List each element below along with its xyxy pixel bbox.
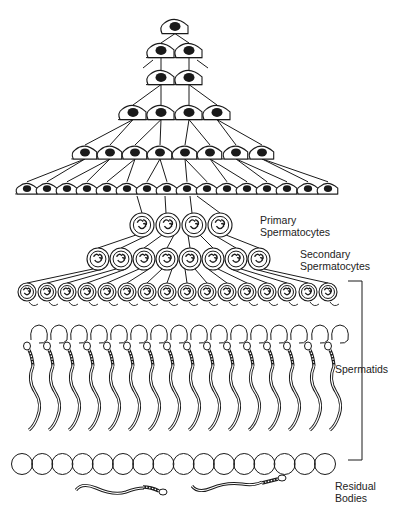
spermatogonium-cell — [147, 105, 174, 119]
spermatogonium-cell — [216, 183, 237, 194]
elongating-spermatid — [24, 300, 48, 430]
elongating-spermatid — [264, 300, 288, 430]
elongating-spermatid — [224, 300, 248, 430]
elongating-spermatid — [204, 300, 228, 430]
spermatogonium-cell — [256, 183, 277, 194]
elongating-spermatid — [124, 300, 148, 430]
residual-body-circle — [72, 454, 93, 475]
spermatid-round-cell — [18, 283, 36, 301]
spermatogonium-cell — [175, 43, 202, 57]
residual-body-circle — [32, 454, 53, 475]
elongating-spermatid — [164, 300, 188, 430]
residual-body-circle — [153, 454, 174, 475]
spermatogonium-cell — [56, 183, 77, 194]
spermatid-round-cell — [138, 283, 156, 301]
secondary-spermatocyte-cell — [110, 248, 132, 270]
secondary-spermatocytes — [87, 248, 270, 270]
elongating-spermatid — [284, 300, 308, 430]
label-spermatids: Spermatids — [335, 363, 388, 375]
spermatogonium-cell — [197, 146, 222, 159]
elongating-spermatid — [64, 300, 88, 430]
spermatid-round-cell — [58, 283, 76, 301]
spermatogonium-cell — [172, 146, 197, 159]
spermatogonium-cell — [122, 146, 147, 159]
primary-spermatocyte-cell — [208, 213, 232, 237]
elongating-spermatid — [184, 300, 208, 430]
spermatid-round-cell — [78, 283, 96, 301]
spermatogonium-cell — [147, 146, 172, 159]
label-residual-bodies: Residual Bodies — [335, 480, 376, 504]
spermatogonium-cell — [147, 70, 174, 84]
residual-body-circle — [133, 454, 154, 475]
secondary-spermatocyte-cell — [133, 248, 155, 270]
spermatid-round-cell — [98, 283, 116, 301]
spermatid-round-cell — [238, 283, 256, 301]
spermatogonium-cell — [72, 146, 97, 159]
spermatid-round-cell — [38, 283, 56, 301]
spermatogonium-cell — [203, 105, 230, 119]
spermatogonium-cell — [97, 146, 122, 159]
spermatid-round-cell — [118, 283, 136, 301]
spermatid-round-cell — [178, 283, 196, 301]
secondary-spermatocyte-cell — [225, 248, 247, 270]
spermatogonium-cell — [196, 183, 217, 194]
residual-body-circle — [294, 454, 315, 475]
spermatogonium-cell — [175, 70, 202, 84]
secondary-spermatocyte-cell — [87, 248, 109, 270]
spermatogonium-cell — [16, 183, 37, 194]
spermatogonium-cell — [96, 183, 117, 194]
residual-body-circle — [52, 454, 73, 475]
secondary-spermatocyte-cell — [248, 248, 270, 270]
residual-bodies — [12, 454, 336, 496]
spermatogonium-cell — [161, 19, 188, 33]
secondary-spermatocyte-cell — [179, 248, 201, 270]
spermatid-round-cell — [258, 283, 276, 301]
spermatid-round-cell — [278, 283, 296, 301]
spermatogonium-cell — [119, 105, 146, 119]
elongating-spermatid — [84, 300, 108, 430]
primary-spermatocyte-cell — [156, 213, 180, 237]
residual-body-circle — [214, 454, 235, 475]
elongating-spermatid — [244, 300, 268, 430]
primary-spermatocyte-cell — [182, 213, 206, 237]
residual-sperm-fragment — [76, 485, 167, 495]
residual-body-circle — [12, 454, 33, 475]
spermatogonium-cell — [147, 43, 174, 57]
label-secondary-spermatocytes: Secondary Spermatocytes — [300, 248, 370, 272]
spermatid-round-cell — [299, 283, 317, 301]
residual-body-circle — [274, 454, 295, 475]
spermatogonium-cell — [297, 183, 318, 194]
spermatogonium-cell — [276, 183, 297, 194]
residual-body-circle — [193, 454, 214, 475]
spermatogonium-cell — [176, 183, 197, 194]
spermatids — [18, 283, 348, 430]
elongating-spermatid — [104, 300, 128, 430]
spermatogonium-cell — [156, 183, 177, 194]
elongating-spermatid — [144, 300, 168, 430]
spermatogonium-cell — [116, 183, 137, 194]
spermatogonium-cell — [36, 183, 57, 194]
residual-body-circle — [315, 454, 336, 475]
residual-body-circle — [113, 454, 134, 475]
spermatogonium-cell — [249, 146, 274, 159]
residual-body-circle — [173, 454, 194, 475]
residual-sperm-fragment — [192, 475, 286, 491]
spermatogonium-cell — [317, 183, 338, 194]
spermatid-round-cell — [158, 283, 176, 301]
secondary-spermatocyte-cell — [202, 248, 224, 270]
elongating-spermatid — [44, 300, 68, 430]
spermatogonium-cell — [136, 183, 157, 194]
spermatid-round-cell — [198, 283, 216, 301]
spermatogonium-cell — [223, 146, 248, 159]
spermatogonium-cell — [175, 105, 202, 119]
residual-body-circle — [234, 454, 255, 475]
spermatogonium-cell — [76, 183, 97, 194]
spermatid-round-cell — [319, 283, 337, 301]
primary-spermatocytes — [130, 213, 232, 237]
residual-body-circle — [254, 454, 275, 475]
primary-spermatocyte-cell — [130, 213, 154, 237]
secondary-spermatocyte-cell — [156, 248, 178, 270]
spermatogonium-cell — [236, 183, 257, 194]
spermatid-round-cell — [218, 283, 236, 301]
label-primary-spermatocytes: Primary Spermatocytes — [260, 214, 330, 238]
